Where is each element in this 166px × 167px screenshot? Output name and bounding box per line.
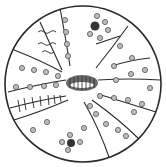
center-nucleus <box>66 75 98 91</box>
divider <box>98 94 156 112</box>
divider <box>96 26 128 68</box>
illustration <box>0 0 166 167</box>
petri-dish-diagram <box>0 0 166 167</box>
divider <box>98 79 160 80</box>
divider <box>92 100 140 140</box>
